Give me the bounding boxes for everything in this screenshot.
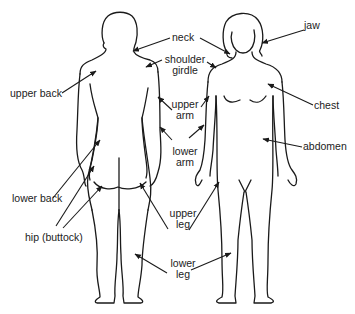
label-shoulder-girdle: shoulder girdle bbox=[160, 54, 210, 76]
label-upper-leg-line2: leg bbox=[158, 219, 208, 230]
label-hip-buttock: hip (buttock) bbox=[25, 232, 83, 243]
label-neck: neck bbox=[172, 32, 194, 43]
label-upper-arm: upper arm bbox=[165, 99, 205, 121]
label-shoulder-girdle-line2: girdle bbox=[160, 65, 210, 76]
label-upper-arm-line2: arm bbox=[165, 110, 205, 121]
back-view-figure bbox=[77, 12, 161, 303]
label-abdomen: abdomen bbox=[303, 141, 347, 152]
label-lower-back: lower back bbox=[12, 193, 62, 204]
label-upper-leg: upper leg bbox=[158, 208, 208, 230]
label-lower-arm: lower arm bbox=[165, 146, 205, 168]
label-lower-arm-line2: arm bbox=[165, 157, 205, 168]
label-lower-leg: lower leg bbox=[158, 258, 208, 280]
label-jaw: jaw bbox=[304, 20, 320, 31]
front-view-figure bbox=[195, 13, 296, 303]
label-lower-leg-line2: leg bbox=[158, 269, 208, 280]
label-chest: chest bbox=[314, 100, 339, 111]
label-upper-back: upper back bbox=[10, 88, 62, 99]
body-parts-diagram: neck jaw shoulder girdle upper back ches… bbox=[0, 0, 355, 314]
